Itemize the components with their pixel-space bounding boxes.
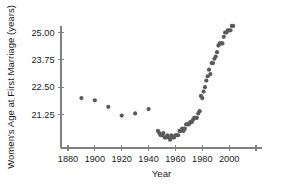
data-point bbox=[183, 127, 187, 131]
data-point bbox=[79, 96, 83, 100]
data-point bbox=[231, 24, 235, 28]
data-point bbox=[200, 96, 204, 100]
data-point bbox=[198, 109, 202, 113]
data-point bbox=[220, 41, 224, 45]
y-axis-tick-labels: 21.2522.5023.7525.00 bbox=[32, 28, 55, 120]
y-tick-label: 23.75 bbox=[32, 55, 55, 65]
chart-figure: 21.2522.5023.7525.00 1880190019201940196… bbox=[0, 0, 292, 186]
data-point bbox=[215, 50, 219, 54]
y-axis-group: 21.2522.5023.7525.00 bbox=[32, 26, 65, 148]
data-point bbox=[228, 28, 232, 32]
data-point bbox=[106, 105, 110, 109]
x-tick-label: 1880 bbox=[58, 154, 78, 164]
y-tick-label: 21.25 bbox=[32, 110, 55, 120]
data-point bbox=[202, 89, 206, 93]
x-tick-label: 1920 bbox=[111, 154, 131, 164]
y-axis-title: Women's Age at First Marriage (years) bbox=[5, 5, 16, 169]
data-point bbox=[120, 113, 124, 117]
data-point bbox=[176, 133, 180, 137]
data-point bbox=[146, 107, 150, 111]
data-point bbox=[195, 116, 199, 120]
x-tick-label: 1980 bbox=[192, 154, 212, 164]
x-axis-title: Year bbox=[152, 168, 172, 179]
data-point bbox=[207, 68, 211, 72]
data-points bbox=[79, 24, 235, 142]
data-point bbox=[133, 111, 137, 115]
x-axis-group: 1880190019201940196019802000 bbox=[58, 145, 262, 164]
data-point bbox=[222, 35, 226, 39]
x-axis-tick-labels: 1880190019201940196019802000 bbox=[58, 154, 240, 164]
data-point bbox=[93, 98, 97, 102]
x-tick-label: 1960 bbox=[165, 154, 185, 164]
data-point bbox=[161, 131, 165, 135]
data-point bbox=[208, 72, 212, 76]
y-tick-label: 25.00 bbox=[32, 28, 55, 38]
scatter-plot: 21.2522.5023.7525.00 1880190019201940196… bbox=[0, 0, 292, 186]
x-tick-label: 1900 bbox=[85, 154, 105, 164]
x-tick-label: 1940 bbox=[138, 154, 158, 164]
data-point bbox=[211, 61, 215, 65]
x-tick-label: 2000 bbox=[219, 154, 239, 164]
y-tick-label: 22.50 bbox=[32, 82, 55, 92]
data-point bbox=[204, 79, 208, 83]
data-point bbox=[203, 85, 207, 89]
data-point bbox=[214, 54, 218, 58]
